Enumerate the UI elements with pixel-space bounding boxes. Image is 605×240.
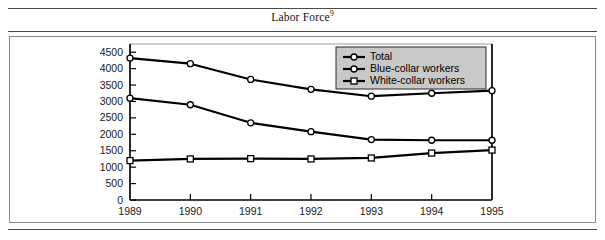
data-point	[368, 137, 374, 143]
x-tick-label: 1995	[480, 205, 504, 217]
legend-label: Blue-collar workers	[370, 62, 459, 74]
line-chart: 0500100015002000250030003500400045001989…	[0, 0, 605, 240]
y-tick-label: 4000	[100, 62, 124, 74]
x-tick-label: 1990	[179, 205, 203, 217]
data-point	[368, 93, 374, 99]
data-point	[308, 129, 314, 135]
data-point	[429, 150, 435, 156]
x-tick-label: 1991	[239, 205, 263, 217]
data-point	[127, 95, 133, 101]
data-point	[308, 86, 314, 92]
y-tick-label: 4500	[100, 46, 124, 58]
data-point	[429, 90, 435, 96]
y-tick-label: 1000	[100, 161, 124, 173]
y-tick-label: 500	[105, 177, 123, 189]
legend-marker	[351, 78, 357, 84]
data-point	[308, 156, 314, 162]
y-tick-label: 2000	[100, 128, 124, 140]
chart-legend: TotalBlue-collar workersWhite-collar wor…	[336, 47, 486, 89]
x-tick-label: 1989	[118, 205, 142, 217]
x-tick-label: 1992	[299, 205, 323, 217]
data-point	[368, 155, 374, 161]
y-tick-label: 3000	[100, 95, 124, 107]
legend-marker	[351, 54, 357, 60]
series-blue-collar-workers	[127, 95, 495, 143]
legend-label: Total	[370, 50, 392, 62]
legend-label: White-collar workers	[370, 74, 465, 86]
figure-labor-force: Labor Force9 050010001500200025003000350…	[0, 0, 605, 240]
data-point	[127, 55, 133, 61]
y-tick-label: 1500	[100, 144, 124, 156]
data-point	[187, 61, 193, 67]
bottom-rule	[8, 229, 597, 230]
y-tick-label: 3500	[100, 79, 124, 91]
data-point	[248, 76, 254, 82]
data-point	[248, 156, 254, 162]
data-point	[489, 88, 495, 94]
data-point	[248, 120, 254, 126]
data-point	[187, 102, 193, 108]
data-point	[127, 158, 133, 164]
data-point	[187, 156, 193, 162]
y-tick-label: 0	[117, 194, 123, 206]
data-point	[489, 137, 495, 143]
x-tick-label: 1994	[420, 205, 444, 217]
data-point	[429, 137, 435, 143]
data-point	[489, 147, 495, 153]
series-white-collar-workers	[127, 147, 495, 164]
y-tick-label: 2500	[100, 111, 124, 123]
legend-marker	[351, 66, 357, 72]
chart-canvas: 0500100015002000250030003500400045001989…	[0, 0, 605, 240]
x-tick-label: 1993	[360, 205, 384, 217]
